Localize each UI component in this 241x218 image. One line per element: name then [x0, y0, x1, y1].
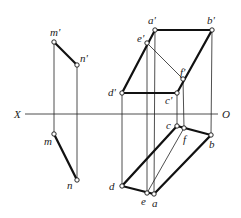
label-b-prime: b' [207, 14, 216, 26]
label-e-prime: e' [137, 32, 145, 44]
label-a-prime: a' [148, 14, 157, 26]
axis-label-o: O [222, 108, 230, 120]
label-a: a [152, 197, 158, 209]
label-m: m [44, 135, 52, 147]
label-f: f [183, 133, 188, 145]
front-view-plane [122, 30, 212, 93]
projection-diagram: X O m' [0, 0, 241, 218]
axis-label-x: X [13, 108, 22, 120]
top-view-plane [122, 126, 211, 194]
points [52, 28, 214, 196]
label-m-prime: m' [50, 26, 61, 38]
label-b: b [209, 138, 215, 150]
line-e-prime-f-prime [147, 43, 183, 79]
label-c: c [166, 119, 171, 131]
line-mn [54, 134, 77, 180]
line-m-prime-n-prime [54, 42, 77, 65]
label-d: d [109, 180, 115, 192]
label-f-prime: f' [180, 66, 186, 78]
label-d-prime: d' [108, 86, 117, 98]
label-n-prime: n' [80, 52, 89, 64]
label-c-prime: c' [165, 94, 173, 106]
label-n: n [67, 179, 73, 191]
label-e: e [141, 195, 146, 207]
